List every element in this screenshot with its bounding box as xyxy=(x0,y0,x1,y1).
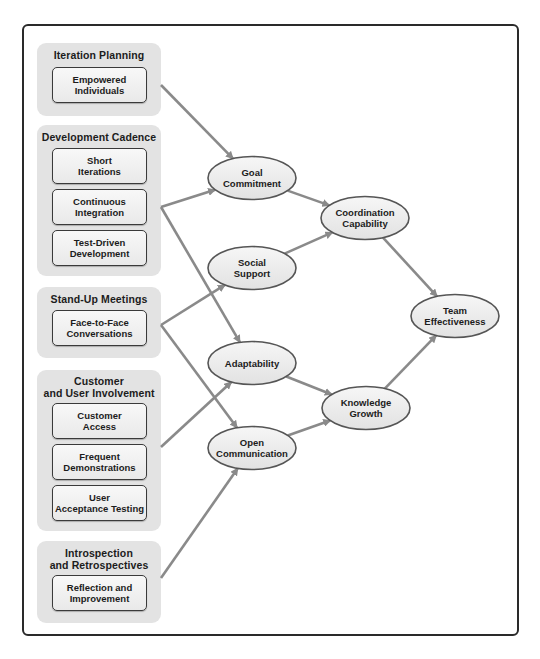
arrow-adaptability-to-knowledge-growth xyxy=(286,377,332,395)
node-coordination-capability: CoordinationCapability xyxy=(321,197,409,240)
arrow-development-cadence-to-goal-commitment xyxy=(161,190,215,207)
node-label: Coordination xyxy=(335,207,394,218)
node-label: Social xyxy=(238,257,266,268)
figure-caption-clipped xyxy=(60,652,480,659)
node-knowledge-growth: KnowledgeGrowth xyxy=(322,387,410,430)
node-label: Commitment xyxy=(223,178,282,189)
arrow-coordination-capability-to-team-effectiveness xyxy=(383,238,437,297)
arrow-iteration-planning-to-goal-commitment xyxy=(161,85,233,159)
node-label: Open xyxy=(240,437,264,448)
node-label: Communication xyxy=(216,448,288,459)
node-label: Adaptability xyxy=(225,358,280,369)
arrow-goal-commitment-to-coordination-capability xyxy=(288,191,330,206)
node-label: Team xyxy=(443,305,467,316)
arrow-knowledge-growth-to-team-effectiveness xyxy=(385,335,436,388)
node-label: Goal xyxy=(241,167,262,178)
node-adaptability: Adaptability xyxy=(208,342,296,385)
arrow-stand-up-meetings-to-social-support xyxy=(161,285,225,325)
arrow-open-communication-to-knowledge-growth xyxy=(288,421,331,436)
node-label: Support xyxy=(234,268,271,279)
node-label: Effectiveness xyxy=(424,316,485,327)
diagram-canvas: GoalCommitmentSocialSupportAdaptabilityO… xyxy=(0,0,540,659)
node-label: Growth xyxy=(349,408,382,419)
node-open-communication: OpenCommunication xyxy=(208,427,296,470)
node-goal-commitment: GoalCommitment xyxy=(208,157,296,200)
node-social-support: SocialSupport xyxy=(208,247,296,290)
node-label: Capability xyxy=(342,218,388,229)
arrow-social-support-to-coordination-capability xyxy=(285,232,333,253)
edges-layer xyxy=(161,85,437,578)
node-label: Knowledge xyxy=(341,397,392,408)
nodes-layer: GoalCommitmentSocialSupportAdaptabilityO… xyxy=(208,157,499,470)
node-team-effectiveness: TeamEffectiveness xyxy=(411,295,499,338)
arrow-introspection-and-retrospectives-to-open-communication xyxy=(161,468,238,578)
